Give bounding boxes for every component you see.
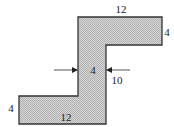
- stem-thickness-label: 4: [90, 64, 96, 76]
- bottom-width-label: 12: [61, 111, 72, 123]
- stem-height-label: 10: [112, 74, 124, 86]
- z-section-diagram: 12 4 4 10 4 12: [0, 0, 174, 127]
- top-width-label: 12: [116, 3, 127, 15]
- bottom-height-label: 4: [8, 102, 14, 114]
- top-height-label: 4: [164, 26, 170, 38]
